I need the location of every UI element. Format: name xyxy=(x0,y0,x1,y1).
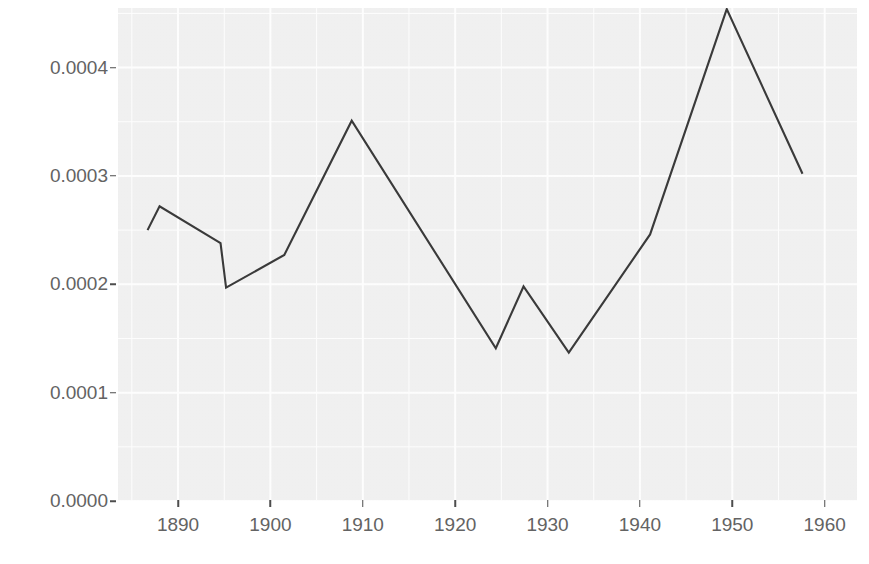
x-tick-mark xyxy=(362,500,364,507)
x-tick-label: 1960 xyxy=(804,514,846,536)
x-tick-mark xyxy=(454,500,456,507)
x-tick-mark xyxy=(824,500,826,507)
x-tick-label: 1900 xyxy=(249,514,291,536)
x-tick-label: 1930 xyxy=(526,514,568,536)
x-tick-mark xyxy=(270,500,272,507)
y-tick-mark xyxy=(110,500,116,502)
x-tick-label: 1950 xyxy=(711,514,753,536)
y-tick-mark xyxy=(110,67,116,69)
x-tick-label: 1890 xyxy=(157,514,199,536)
x-tick-label: 1940 xyxy=(619,514,661,536)
line-chart: References to Japanese 0.00000.00010.000… xyxy=(0,0,869,564)
x-tick-label: 1920 xyxy=(434,514,476,536)
y-tick-mark xyxy=(110,175,116,177)
x-tick-mark xyxy=(547,500,549,507)
x-tick-mark xyxy=(177,500,179,507)
x-axis-tick-labels: 18901900191019201930194019501960 xyxy=(0,0,869,564)
x-tick-mark xyxy=(639,500,641,507)
x-tick-mark xyxy=(732,500,734,507)
y-tick-mark xyxy=(110,284,116,286)
y-tick-mark xyxy=(110,392,116,394)
x-tick-label: 1910 xyxy=(342,514,384,536)
